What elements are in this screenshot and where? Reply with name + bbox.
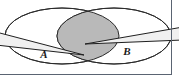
set-a-label: A	[39, 48, 47, 60]
set-b-label: B	[122, 45, 130, 57]
venn-diagram-canvas: A B	[0, 0, 179, 84]
venn-diagram-figure: A B	[0, 0, 179, 84]
